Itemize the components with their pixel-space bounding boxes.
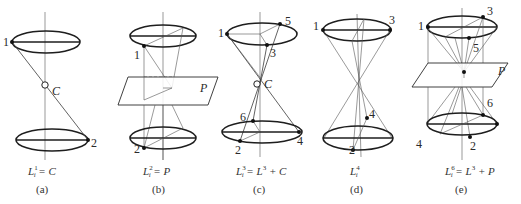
point-label-3: 3 (270, 47, 276, 59)
inversion-center-label: C (52, 85, 60, 97)
point-label-6: 6 (240, 111, 246, 123)
point-label-5: 5 (473, 42, 479, 54)
point-label-4: 4 (416, 138, 422, 150)
panel-a-subcaption: (a) (36, 184, 48, 195)
inversion-center-icon (42, 82, 48, 88)
panel-d-drawing (321, 14, 393, 157)
panel-e-drawing (412, 8, 508, 160)
inversion-center-label: C (264, 78, 272, 90)
panel-c-formula: L3i = L3 + C (236, 165, 286, 179)
point-label-2: 2 (470, 140, 476, 152)
inversion-center-icon (254, 81, 260, 87)
panel-e-subcaption: (e) (455, 184, 467, 195)
mirror-plane (412, 63, 508, 87)
panel-c-drawing (222, 12, 302, 157)
mirror-plane-label: P (200, 82, 207, 94)
inversion-line (12, 42, 88, 140)
point-label-3: 3 (487, 5, 493, 17)
point-label-2: 2 (134, 143, 140, 155)
panel-e-formula: L6i = L3 + P (445, 165, 495, 179)
point-label-3: 3 (389, 14, 395, 26)
point-label-1: 1 (313, 20, 319, 32)
point-label-1: 1 (3, 36, 9, 48)
panel-a-drawing (10, 12, 90, 160)
point-label-6: 6 (487, 97, 493, 109)
point-label-2: 2 (91, 137, 97, 149)
panel-a-formula: L1i = C (28, 165, 56, 179)
panel-d-subcaption: (d) (350, 184, 363, 195)
point-label-2: 2 (349, 144, 355, 156)
panel-b-subcaption: (b) (152, 184, 165, 195)
mirror-plane-label: P (498, 65, 505, 77)
point-label-5: 5 (285, 15, 291, 27)
panel-d-formula: L4i (350, 165, 358, 179)
point-label-2: 2 (235, 144, 241, 156)
rotoinversion-axes-figure: 1 2 C 1 2 P 1 5 3 6 2 4 C 1 3 4 2 1 3 5 … (0, 0, 521, 204)
point-label-4: 4 (297, 135, 303, 147)
point-label-1: 1 (418, 20, 424, 32)
panel-b-formula: L2i = P (143, 165, 170, 179)
panel-c-subcaption: (c) (253, 184, 265, 195)
point-label-4: 4 (369, 108, 375, 120)
point-label-1: 1 (134, 49, 140, 61)
point-label-1: 1 (218, 27, 224, 39)
